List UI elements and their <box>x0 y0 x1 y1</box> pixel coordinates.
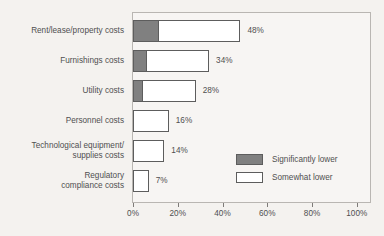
stacked-bar <box>133 80 196 102</box>
bar-value-label: 14% <box>171 146 187 155</box>
stacked-bar <box>133 50 209 72</box>
bar-value-label: 16% <box>176 116 192 125</box>
x-tick-mark <box>357 203 358 207</box>
bar-value-label: 7% <box>156 176 168 185</box>
x-tick-mark <box>223 203 224 207</box>
x-tick-mark <box>178 203 179 207</box>
stacked-bar <box>133 140 164 162</box>
bar-segment-somewhat-lower <box>158 20 241 42</box>
x-tick-mark <box>312 203 313 207</box>
category-label: Rent/lease/property costs <box>0 26 124 36</box>
bar-segment-somewhat-lower <box>142 80 196 102</box>
stacked-bar <box>133 170 149 192</box>
bar-segment-somewhat-lower <box>133 110 169 132</box>
category-label: Technological equipment/ supplies costs <box>0 141 124 160</box>
x-tick-mark <box>267 203 268 207</box>
x-tick-label: 40% <box>214 209 230 218</box>
bar-row: Utility costs28% <box>0 80 384 102</box>
x-tick-label: 60% <box>259 209 275 218</box>
bar-segment-somewhat-lower <box>133 170 149 192</box>
x-axis: 0%20%40%60%80%100% <box>132 203 371 233</box>
bar-segment-somewhat-lower <box>146 50 209 72</box>
legend-item-significantly-lower: Significantly lower <box>236 152 338 167</box>
legend-item-somewhat-lower: Somewhat lower <box>236 170 338 185</box>
bar-segment-significantly-lower <box>133 20 158 42</box>
legend-label-somewhat-lower: Somewhat lower <box>272 173 333 182</box>
bar-row: Personnel costs16% <box>0 110 384 132</box>
bar-segment-significantly-lower <box>133 50 146 72</box>
x-tick-mark <box>133 203 134 207</box>
category-label: Regulatory compliance costs <box>0 171 124 190</box>
x-tick-label: 20% <box>170 209 186 218</box>
stacked-bar <box>133 20 240 42</box>
bar-row: Rent/lease/property costs48% <box>0 20 384 42</box>
category-label: Personnel costs <box>0 116 124 126</box>
stacked-bar <box>133 110 169 132</box>
horizontal-stacked-bar-chart: Rent/lease/property costs48%Furnishings … <box>0 0 384 236</box>
legend-swatch-somewhat-lower-icon <box>236 172 263 183</box>
bar-value-label: 28% <box>203 86 219 95</box>
bar-row: Furnishings costs34% <box>0 50 384 72</box>
x-tick-label: 100% <box>346 209 367 218</box>
bar-segment-significantly-lower <box>133 80 142 102</box>
bar-segment-somewhat-lower <box>133 140 164 162</box>
category-label: Utility costs <box>0 86 124 96</box>
x-tick-label: 0% <box>127 209 139 218</box>
legend-swatch-significantly-lower-icon <box>236 154 263 165</box>
bar-value-label: 48% <box>247 26 263 35</box>
legend-label-significantly-lower: Significantly lower <box>272 155 338 164</box>
x-tick-label: 80% <box>304 209 320 218</box>
bar-value-label: 34% <box>216 56 232 65</box>
chart-legend: Significantly lower Somewhat lower <box>236 152 338 188</box>
category-label: Furnishings costs <box>0 56 124 66</box>
